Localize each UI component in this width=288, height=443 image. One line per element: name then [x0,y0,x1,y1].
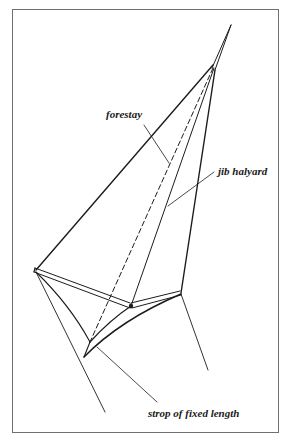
mast-top-line-a [212,25,231,68]
label-jib-halyard: jib halyard [216,165,268,177]
jib-halyard-leader [168,172,214,206]
jib-halyard-line [131,68,214,306]
strop-line-lower [84,294,181,357]
label-forestay: forestay [106,108,142,120]
clew-downline [181,294,208,370]
boom-line-b [34,272,130,308]
label-strop: strop of fixed length [147,407,239,419]
rigging-diagram: forestay jib halyard strop of fixed leng… [0,0,288,443]
tack-downline [36,272,105,412]
strop-leader [97,347,157,402]
jib-luff [36,65,213,270]
boom-end-cap [34,268,35,272]
jib-leech [181,70,215,293]
mast-top-line-b [215,25,231,70]
